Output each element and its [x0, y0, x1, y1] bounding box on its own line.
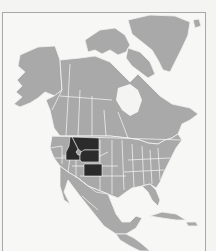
- state-wyoming: [80, 150, 99, 162]
- north-america-map: [0, 0, 216, 251]
- florida: [142, 184, 160, 206]
- iceland: [193, 19, 201, 28]
- cuba: [150, 212, 186, 220]
- hispaniola: [186, 222, 198, 226]
- baffin-island: [126, 48, 155, 78]
- central-america: [116, 234, 150, 251]
- state-colorado: [84, 164, 102, 176]
- arctic-islands: [85, 28, 130, 55]
